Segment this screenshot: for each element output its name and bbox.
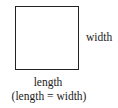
width-label: width (86, 31, 112, 44)
square-shape (15, 6, 79, 70)
relation-label: (length = width) (0, 90, 98, 103)
length-label: length (0, 76, 96, 89)
